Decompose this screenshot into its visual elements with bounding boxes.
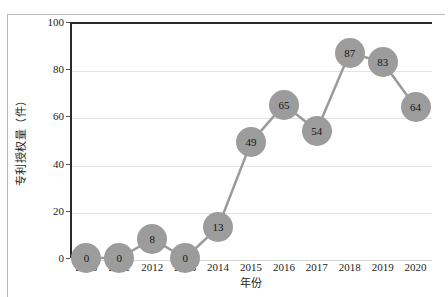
y-axis-tick-label: 100 xyxy=(48,17,65,28)
x-axis-tick-label: 2014 xyxy=(207,262,229,273)
y-axis-tick-mark xyxy=(66,258,70,259)
y-axis-tick-label: 40 xyxy=(53,158,64,169)
x-axis-tick-label: 2018 xyxy=(339,262,361,273)
x-axis-tick-label: 2016 xyxy=(273,262,295,273)
data-point-marker: 54 xyxy=(302,116,332,146)
data-point-marker: 64 xyxy=(401,92,431,122)
x-axis-title: 年份 xyxy=(240,278,262,289)
x-axis-tick-label: 2012 xyxy=(141,262,163,273)
data-point-marker: 87 xyxy=(335,38,365,68)
x-axis-tick-label: 2015 xyxy=(240,262,262,273)
data-point-marker: 65 xyxy=(269,90,299,120)
data-point-marker: 83 xyxy=(368,47,398,77)
line-chart: 专利授权量（件） 020406080100 201020112012201320… xyxy=(0,0,448,297)
y-axis-tick-label: 20 xyxy=(53,205,64,216)
y-axis-tick-mark xyxy=(66,69,70,70)
y-axis-tick-label: 0 xyxy=(59,253,65,264)
y-axis-tick-mark xyxy=(66,116,70,117)
x-axis-tick-label: 2017 xyxy=(306,262,328,273)
y-axis-tick-mark xyxy=(66,211,70,212)
y-axis-tick-mark xyxy=(66,164,70,165)
x-axis-tick-label: 2020 xyxy=(405,262,427,273)
data-point-marker: 0 xyxy=(170,243,200,273)
y-axis-title: 专利授权量（件） xyxy=(12,94,28,186)
gridline xyxy=(72,166,432,167)
y-axis-tick-mark xyxy=(66,22,70,23)
gridline xyxy=(72,118,432,119)
x-axis-tick-label: 2019 xyxy=(372,262,394,273)
gridline xyxy=(72,213,432,214)
y-axis-tick-label: 60 xyxy=(53,111,64,122)
y-axis-tick-label: 80 xyxy=(53,64,64,75)
